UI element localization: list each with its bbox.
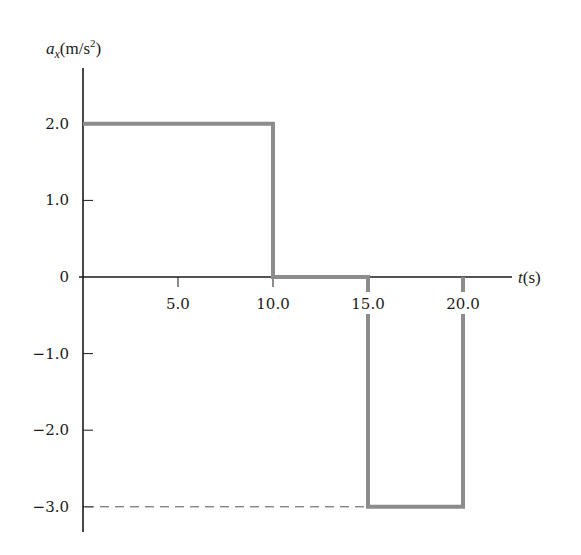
chart: ax(m/s2) t(s) 2.01.00−1.0−2.0−3.05.010.0… [0,0,581,555]
y-tick-label: 2.0 [45,115,69,133]
x-tick-label: 10.0 [256,295,289,313]
x-tick-label: 20.0 [446,295,479,313]
y-tick-label: −3.0 [33,498,69,516]
series-line [83,124,463,507]
y-tick-label: 1.0 [45,191,69,209]
x-tick-label: 5.0 [166,295,190,313]
y-tick-label: −1.0 [33,345,69,363]
x-axis-title: t(s) [518,268,541,287]
tick-labels: 2.01.00−1.0−2.0−3.05.010.015.020.0 [33,115,480,516]
y-tick-label: −2.0 [33,421,69,439]
y-axis-title: ax(m/s2) [46,37,101,61]
y-tick-label: 0 [59,268,69,286]
x-tick-label: 15.0 [351,295,384,313]
data-series [83,124,467,507]
